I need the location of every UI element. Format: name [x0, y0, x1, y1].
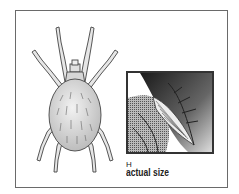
leaf-inset: [126, 71, 214, 154]
leaf-closeup-illustration: [128, 73, 212, 152]
actual-size-caption: actual size: [126, 167, 169, 178]
mite-illustration: [25, 20, 125, 180]
